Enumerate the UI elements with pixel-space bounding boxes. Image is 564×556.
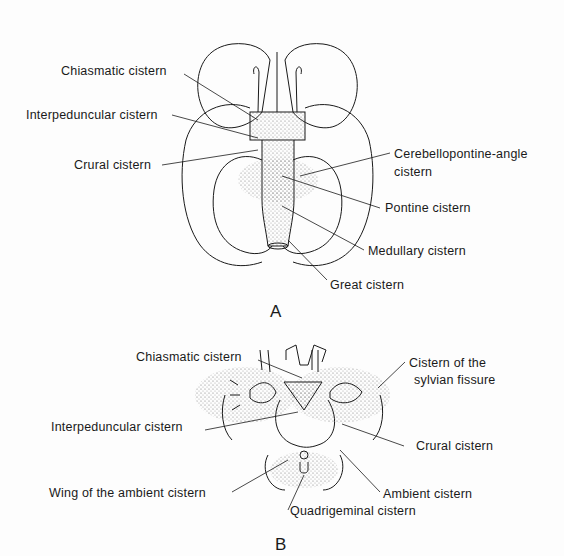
cisterns-figure: Chiasmatic cistern Interpeduncular ciste… bbox=[0, 0, 564, 556]
panel-b-drawing bbox=[195, 345, 390, 490]
label-wing-of-ambient-cistern: Wing of the ambient cistern bbox=[49, 486, 206, 500]
label-cistern-of-sylvian-fissure: Cistern of the bbox=[409, 356, 486, 370]
panel-letter-a: A bbox=[270, 302, 281, 322]
label-cistern-of-sylvian-fissure-line2: sylvian fissure bbox=[414, 373, 496, 387]
label-great-cistern: Great cistern bbox=[330, 278, 404, 292]
label-cerebellopontine-angle-cistern: Cerebellopontine-angle bbox=[394, 147, 528, 161]
label-crural-cistern-a: Crural cistern bbox=[74, 158, 151, 172]
label-interpeduncular-cistern-a: Interpeduncular cistern bbox=[26, 108, 158, 122]
figure-drawing bbox=[0, 0, 564, 556]
label-chiasmatic-cistern-b: Chiasmatic cistern bbox=[136, 350, 242, 364]
panel-a-drawing bbox=[182, 44, 373, 266]
label-medullary-cistern: Medullary cistern bbox=[368, 244, 466, 258]
panel-letter-b: B bbox=[275, 535, 286, 555]
label-cerebellopontine-angle-cistern-line2: cistern bbox=[394, 165, 432, 179]
label-interpeduncular-cistern-b: Interpeduncular cistern bbox=[51, 420, 183, 434]
label-ambient-cistern: Ambient cistern bbox=[383, 487, 472, 501]
label-crural-cistern-b: Crural cistern bbox=[416, 439, 493, 453]
label-quadrigeminal-cistern: Quadrigeminal cistern bbox=[290, 504, 416, 518]
label-chiasmatic-cistern-a: Chiasmatic cistern bbox=[61, 64, 167, 78]
label-pontine-cistern: Pontine cistern bbox=[385, 201, 471, 215]
